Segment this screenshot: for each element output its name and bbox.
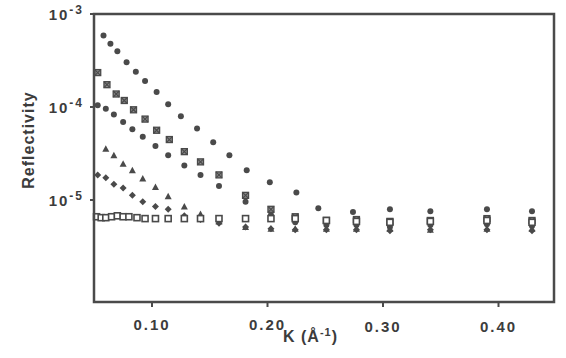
data-point-crossed-square bbox=[95, 70, 101, 76]
y-axis-title: Reflectivity bbox=[20, 91, 37, 188]
data-point-circle bbox=[165, 101, 171, 107]
data-point-circle bbox=[133, 69, 139, 75]
data-point-crossed-square bbox=[104, 82, 110, 88]
data-point-circle bbox=[114, 48, 120, 54]
data-point-circle bbox=[129, 126, 135, 132]
data-point-circle bbox=[178, 113, 184, 119]
data-point-circle bbox=[111, 111, 117, 117]
data-point-crossed-square bbox=[131, 107, 137, 113]
data-point-open-square bbox=[484, 217, 490, 223]
data-point-circle bbox=[210, 139, 216, 145]
data-point-circle bbox=[152, 143, 158, 149]
data-point-open-square bbox=[387, 219, 393, 225]
data-point-crossed-square bbox=[181, 149, 187, 155]
data-point-circle bbox=[100, 32, 106, 38]
data-point-circle bbox=[243, 199, 249, 205]
data-point-circle bbox=[315, 205, 321, 211]
data-point-open-square bbox=[142, 216, 148, 222]
data-point-circle bbox=[140, 134, 146, 140]
data-point-circle bbox=[529, 208, 535, 214]
data-point-circle bbox=[216, 183, 222, 189]
data-point-circle bbox=[103, 106, 109, 112]
data-point-circle bbox=[194, 125, 200, 131]
x-tick-label: 0.40 bbox=[480, 318, 517, 335]
data-point-crossed-square bbox=[142, 116, 148, 122]
data-point-open-square bbox=[268, 216, 274, 222]
data-point-open-square bbox=[427, 218, 433, 224]
data-point-circle bbox=[484, 206, 490, 212]
data-point-circle bbox=[120, 119, 126, 125]
data-point-circle bbox=[165, 152, 171, 158]
data-point-circle bbox=[293, 190, 299, 196]
data-point-open-square bbox=[292, 216, 298, 222]
data-point-circle bbox=[267, 179, 273, 185]
data-point-circle bbox=[95, 102, 101, 108]
data-point-open-square bbox=[216, 216, 222, 222]
data-point-open-square bbox=[134, 215, 140, 221]
data-point-crossed-square bbox=[113, 91, 119, 97]
x-tick-label: 0.30 bbox=[364, 318, 401, 335]
data-point-open-square bbox=[181, 216, 187, 222]
data-point-open-square bbox=[198, 216, 204, 222]
data-point-open-square bbox=[243, 216, 249, 222]
data-point-open-square bbox=[126, 214, 132, 220]
data-point-open-square bbox=[152, 216, 158, 222]
data-point-crossed-square bbox=[198, 159, 204, 165]
data-point-circle bbox=[198, 172, 204, 178]
data-point-open-square bbox=[529, 219, 535, 225]
data-point-circle bbox=[387, 206, 393, 212]
reflectivity-chart: 0.100.200.300.40 10-310-410-5 Reflectivi… bbox=[0, 0, 566, 358]
data-point-circle bbox=[350, 209, 356, 215]
data-point-circle bbox=[142, 78, 148, 84]
data-point-circle bbox=[107, 41, 113, 47]
data-point-crossed-square bbox=[121, 97, 127, 103]
data-point-circle bbox=[124, 59, 130, 65]
data-point-open-square bbox=[353, 218, 359, 224]
data-point-circle bbox=[154, 89, 160, 95]
x-tick-label: 0.20 bbox=[249, 316, 286, 333]
chart-background bbox=[0, 0, 566, 358]
x-tick-label: 0.10 bbox=[133, 316, 170, 333]
data-point-crossed-square bbox=[243, 192, 249, 198]
data-point-open-square bbox=[165, 216, 171, 222]
data-point-crossed-square bbox=[154, 127, 160, 133]
data-point-circle bbox=[226, 152, 232, 158]
data-point-circle bbox=[244, 167, 250, 173]
data-point-circle bbox=[181, 163, 187, 169]
data-point-circle bbox=[427, 208, 433, 214]
data-point-crossed-square bbox=[216, 172, 222, 178]
data-point-open-square bbox=[323, 217, 329, 223]
data-point-crossed-square bbox=[268, 206, 274, 212]
data-point-crossed-square bbox=[166, 137, 172, 143]
